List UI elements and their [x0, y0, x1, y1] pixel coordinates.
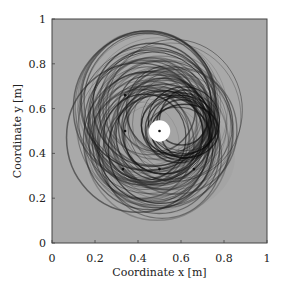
source-point — [158, 168, 161, 171]
y-tick-label: 0.4 — [29, 147, 47, 160]
source-point — [124, 94, 127, 97]
source-point — [193, 168, 196, 171]
x-tick-label: 0.2 — [86, 252, 104, 265]
source-point — [124, 130, 127, 133]
x-tick-label: 0 — [49, 252, 56, 265]
x-tick-label: 0.6 — [172, 252, 190, 265]
x-tick-label: 1 — [264, 252, 271, 265]
x-tick-label: 0.4 — [129, 252, 147, 265]
y-tick-label: 1 — [39, 13, 46, 26]
source-point — [122, 168, 125, 171]
x-axis-title: Coordinate x [m] — [112, 266, 206, 279]
y-tick-label: 0 — [39, 237, 46, 250]
y-tick-label: 0.2 — [29, 192, 47, 205]
y-tick-label: 0.8 — [29, 58, 47, 71]
source-point — [158, 130, 161, 133]
y-axis-title: Coordinate y [m] — [11, 84, 24, 178]
chart: 00.20.40.60.81 00.20.40.60.81 Coordinate… — [0, 0, 284, 293]
y-tick-label: 0.6 — [29, 103, 47, 116]
x-axis-ticks: 00.20.40.60.81 — [49, 240, 271, 265]
y-axis-ticks: 00.20.40.60.81 — [29, 13, 56, 250]
x-tick-label: 0.8 — [215, 252, 233, 265]
